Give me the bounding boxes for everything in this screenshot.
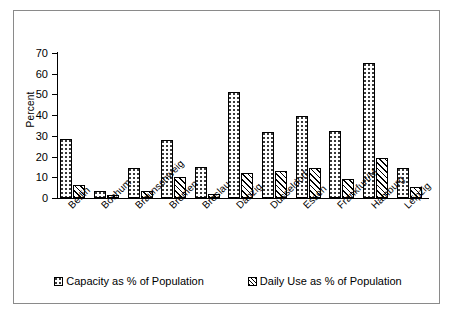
y-tick-label: 10 — [14, 172, 48, 183]
legend-swatch-icon — [248, 277, 257, 286]
chart-legend: Capacity as % of PopulationDaily Use as … — [0, 275, 456, 287]
legend-item: Capacity as % of Population — [54, 275, 204, 287]
bar-group — [226, 53, 260, 198]
legend-label: Capacity as % of Population — [66, 275, 204, 287]
legend-item: Daily Use as % of Population — [248, 275, 402, 287]
chart-figure: Percent 010203040506070 BerlinBochumBrau… — [0, 0, 456, 325]
bar-capacity — [228, 92, 240, 198]
bar-group — [125, 53, 159, 198]
legend-label: Daily Use as % of Population — [260, 275, 402, 287]
y-tick-label: 60 — [14, 69, 48, 80]
y-tick-label: 70 — [14, 48, 48, 59]
bar-group — [193, 53, 227, 198]
y-tick-label: 0 — [14, 193, 48, 204]
y-tick-label: 50 — [14, 89, 48, 100]
y-tick-label: 20 — [14, 152, 48, 163]
bar-group — [260, 53, 294, 198]
y-tick-label: 30 — [14, 131, 48, 142]
bar-group — [327, 53, 361, 198]
bar-capacity — [60, 139, 72, 198]
legend-swatch-icon — [54, 277, 63, 286]
y-tick-label: 40 — [14, 110, 48, 121]
bar-capacity — [329, 131, 341, 198]
bar-group — [92, 53, 126, 198]
bar-group — [58, 53, 92, 198]
